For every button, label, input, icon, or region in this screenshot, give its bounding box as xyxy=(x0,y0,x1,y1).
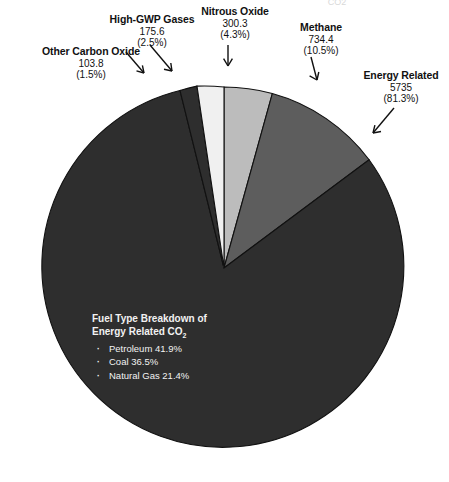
pie-slices xyxy=(42,86,404,447)
callout-value: 103.8 xyxy=(24,58,158,69)
callout-percent: (10.5%) xyxy=(272,45,370,56)
callout-energy-related: Energy Related 5735 (81.3%) xyxy=(355,70,447,104)
callout-other-carbon-oxide: Other Carbon Oxide 103.8 (1.5%) xyxy=(24,46,158,80)
leader-arrow-energy-related xyxy=(373,108,394,133)
callout-value: 734.4 xyxy=(272,34,370,45)
inner-annotation-heading-text: Energy Related CO xyxy=(92,326,183,337)
chart-canvas: CO2 xyxy=(0,0,449,482)
list-item: Natural Gas 21.4% xyxy=(92,370,302,382)
inner-annotation-subscript: 2 xyxy=(183,332,187,339)
leader-arrow-methane xyxy=(310,57,319,80)
callout-name: Methane xyxy=(272,22,370,34)
callout-methane: Methane 734.4 (10.5%) xyxy=(272,22,370,56)
leader-arrow-nitrous-oxide xyxy=(224,45,233,66)
inner-annotation-heading-line1: Fuel Type Breakdown of xyxy=(92,313,302,326)
list-item: Petroleum 41.9% xyxy=(92,343,302,355)
inner-annotation-fuel-breakdown: Fuel Type Breakdown of Energy Related CO… xyxy=(92,313,302,382)
inner-annotation-heading-line2: Energy Related CO2 xyxy=(92,326,302,341)
callout-percent: (1.5%) xyxy=(24,69,158,80)
callout-name: Energy Related xyxy=(355,70,447,82)
list-item: Coal 36.5% xyxy=(92,356,302,368)
callout-value: 5735 xyxy=(355,82,447,93)
callout-name: Nitrous Oxide xyxy=(183,6,287,18)
inner-annotation-list: Petroleum 41.9% Coal 36.5% Natural Gas 2… xyxy=(92,343,302,382)
callout-percent: (81.3%) xyxy=(355,93,447,104)
